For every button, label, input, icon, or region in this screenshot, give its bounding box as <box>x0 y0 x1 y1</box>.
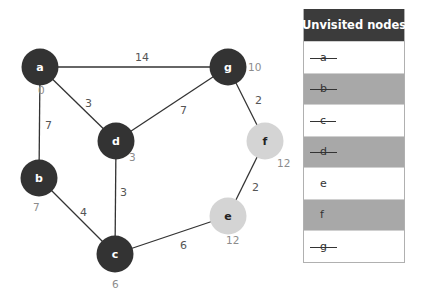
node-label: a <box>36 61 43 74</box>
node-a: a0 <box>22 49 59 97</box>
node-b: b7 <box>21 160 58 214</box>
node-distance-label: 12 <box>277 157 290 169</box>
edge-weight-label: 2 <box>252 181 259 194</box>
table-row-b: b <box>304 73 404 105</box>
edge-weight-label: 4 <box>80 206 87 219</box>
table-row-a: a <box>304 41 404 73</box>
table-row-f: f <box>304 199 404 231</box>
edge-weight-label: 2 <box>255 94 262 107</box>
graph-diagram: 1437723426 a0b7c6d3e12f12g10 <box>0 0 300 291</box>
node-label: d <box>112 135 120 148</box>
edge-weight-label: 3 <box>120 186 127 199</box>
node-g: g10 <box>210 49 262 86</box>
node-name: b <box>310 82 337 95</box>
table-row-g: g <box>304 230 404 262</box>
table-row-d: d <box>304 136 404 168</box>
node-distance-label: 10 <box>248 61 261 73</box>
edge-weight-label: 3 <box>85 97 92 110</box>
node-distance-label: 7 <box>33 201 40 213</box>
node-name: a <box>310 51 337 64</box>
node-name: g <box>310 240 337 253</box>
node-label: g <box>224 61 232 74</box>
edge-weight-label: 7 <box>45 119 52 132</box>
node-label: f <box>263 135 268 148</box>
node-e: e12 <box>210 198 247 247</box>
edge-g-d <box>116 67 228 141</box>
edge-weight-label: 14 <box>135 51 149 64</box>
node-label: e <box>224 210 231 223</box>
table-row-e: e <box>304 167 404 199</box>
node-c: c6 <box>97 236 134 291</box>
table-row-c: c <box>304 104 404 136</box>
edge-weight-label: 7 <box>180 104 187 117</box>
node-distance-label: 3 <box>129 151 136 163</box>
node-name: d <box>310 145 337 158</box>
unvisited-nodes-table: Unvisited nodes abcdefg <box>303 9 405 263</box>
node-d: d3 <box>98 123 136 164</box>
node-f: f12 <box>247 123 291 170</box>
node-label: c <box>112 248 119 261</box>
table-header: Unvisited nodes <box>304 9 404 41</box>
node-distance-label: 0 <box>38 84 45 96</box>
nodes-group: a0b7c6d3e12f12g10 <box>21 49 291 291</box>
edge-weight-label: 6 <box>180 239 187 252</box>
node-name: f <box>310 208 334 221</box>
node-distance-label: 12 <box>226 234 239 246</box>
node-name: c <box>310 114 336 127</box>
node-name: e <box>310 177 337 190</box>
node-distance-label: 6 <box>112 278 119 290</box>
node-label: b <box>35 172 43 185</box>
